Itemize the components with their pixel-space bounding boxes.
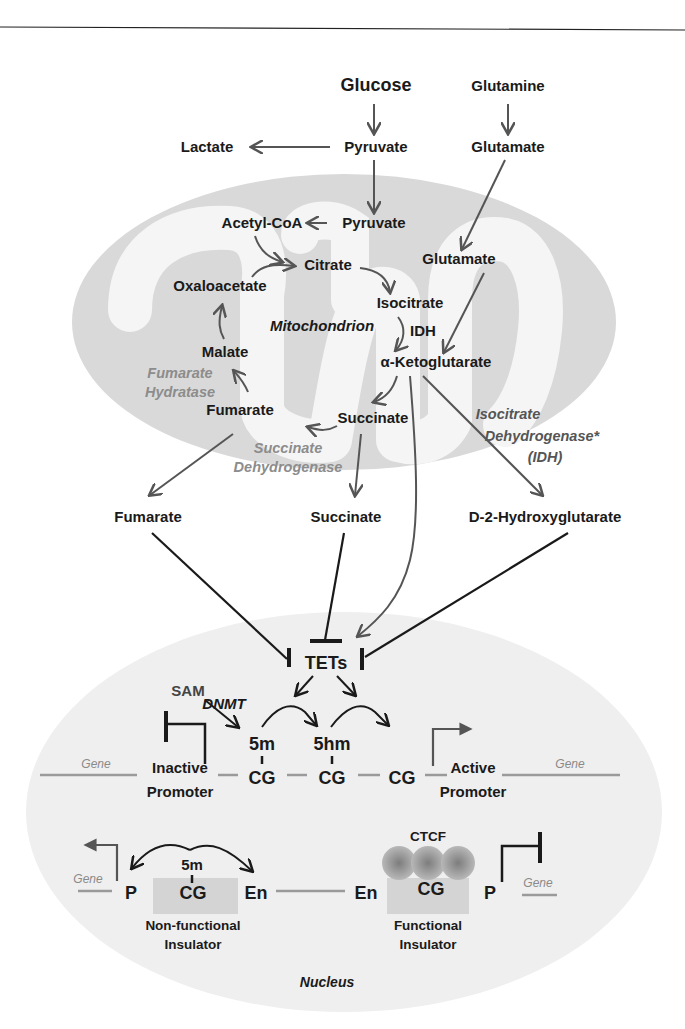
- enzyme-idh-line1: Isocitrate: [476, 406, 540, 422]
- label-active-promoter-line1: Active: [450, 759, 495, 776]
- label-nucleus: Nucleus: [300, 974, 355, 990]
- ctcf-protein: [411, 846, 445, 880]
- label-cg-nf: CG: [180, 883, 207, 903]
- label-active-promoter-line2: Promoter: [440, 783, 507, 800]
- enzyme-idh-line2: Dehydrogenase*: [485, 428, 601, 444]
- diagram-canvas: Glucose Glutamine Lactate Pyruvate Gluta…: [0, 0, 685, 1029]
- label-en-f: En: [354, 883, 377, 903]
- label-cg-3: CG: [389, 768, 416, 788]
- label-functional-insulator-line2: Insulator: [399, 937, 457, 952]
- label-acetyl-coa: Acetyl-CoA: [222, 214, 303, 231]
- ctcf-protein: [382, 846, 416, 880]
- label-cg-2: CG: [319, 768, 346, 788]
- label-d2hg: D-2-Hydroxyglutarate: [469, 508, 622, 525]
- label-citrate: Citrate: [304, 256, 352, 273]
- label-ctcf: CTCF: [410, 829, 446, 844]
- enzyme-succinate-dehydrogenase-line1: Succinate: [254, 440, 323, 456]
- enzyme-succinate-dehydrogenase-line2: Dehydrogenase: [234, 459, 343, 475]
- label-5m: 5m: [249, 734, 275, 754]
- label-inactive-promoter-line1: Inactive: [152, 759, 208, 776]
- top-rule: [0, 27, 685, 30]
- label-malate: Malate: [202, 343, 249, 360]
- label-alpha-ketoglutarate: α-Ketoglutarate: [381, 353, 492, 370]
- label-glutamate-cyto: Glutamate: [471, 138, 544, 155]
- label-succinate-mito: Succinate: [338, 409, 409, 426]
- label-functional-insulator-line1: Functional: [394, 918, 462, 933]
- enzyme-idh-line3: (IDH): [528, 449, 563, 465]
- label-isocitrate: Isocitrate: [377, 294, 444, 311]
- label-lactate: Lactate: [181, 138, 234, 155]
- label-fumarate-mito: Fumarate: [206, 401, 274, 418]
- label-gene-left: Gene: [81, 757, 111, 771]
- label-pyruvate-cyto: Pyruvate: [344, 138, 407, 155]
- label-oxaloacetate: Oxaloacetate: [173, 277, 266, 294]
- label-5hm: 5hm: [313, 734, 350, 754]
- enzyme-fumarate-hydratase-line2: Hydratase: [145, 384, 215, 400]
- label-gene-nf: Gene: [73, 872, 103, 886]
- label-nonfunctional-insulator-line1: Non-functional: [145, 918, 240, 933]
- label-gene-right: Gene: [555, 757, 585, 771]
- label-glutamine: Glutamine: [471, 77, 544, 94]
- label-en-nf: En: [244, 883, 267, 903]
- label-glucose: Glucose: [340, 75, 411, 95]
- label-gene-f: Gene: [523, 876, 553, 890]
- label-pyruvate-mito: Pyruvate: [342, 214, 405, 231]
- label-sam: SAM: [171, 682, 204, 699]
- label-succinate-onco: Succinate: [311, 508, 382, 525]
- label-p-nf: P: [125, 883, 137, 903]
- label-fumarate-onco: Fumarate: [114, 508, 182, 525]
- label-glutamate-mito: Glutamate: [422, 250, 495, 267]
- label-idh: IDH: [410, 322, 436, 339]
- label-p-f: P: [484, 883, 496, 903]
- label-nonfunctional-insulator-line2: Insulator: [164, 937, 222, 952]
- label-tets: TETs: [305, 653, 348, 673]
- ctcf-protein: [441, 846, 475, 880]
- label-cg-f: CG: [418, 879, 445, 899]
- enzyme-fumarate-hydratase-line1: Fumarate: [147, 365, 212, 381]
- label-5m-insulator: 5m: [181, 856, 203, 873]
- label-inactive-promoter-line2: Promoter: [147, 783, 214, 800]
- label-cg-1: CG: [249, 768, 276, 788]
- label-mitochondrion: Mitochondrion: [270, 317, 374, 334]
